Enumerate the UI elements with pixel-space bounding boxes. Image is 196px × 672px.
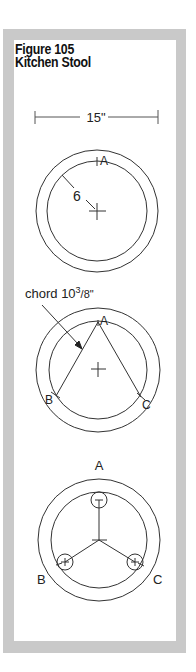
step1-label-a: A — [100, 154, 108, 168]
radius-line-outer — [62, 175, 74, 188]
chord-ab — [56, 322, 98, 396]
spoke-b — [65, 540, 99, 562]
step3-label-a: A — [95, 458, 104, 473]
dimension-label: 15" — [86, 110, 105, 125]
stool-diagram: 15" 6 A chord 103/8" A B C A B C — [0, 0, 196, 672]
chord-arrow-line — [42, 305, 78, 344]
step3-label-b: B — [37, 572, 46, 587]
spoke-c — [99, 540, 135, 562]
radius-label: 6 — [73, 188, 81, 204]
step3-circles — [38, 479, 160, 601]
chord-label: chord 103/8" — [25, 285, 94, 301]
step2-circles — [36, 305, 160, 432]
step2-label-b: B — [45, 393, 53, 407]
step2-label-c: C — [142, 398, 151, 412]
radius-line-inner — [86, 200, 95, 209]
step1-circles — [36, 150, 158, 272]
step3-label-c: C — [153, 572, 162, 587]
chord-ac — [98, 322, 141, 397]
step2-label-a: A — [100, 314, 108, 328]
